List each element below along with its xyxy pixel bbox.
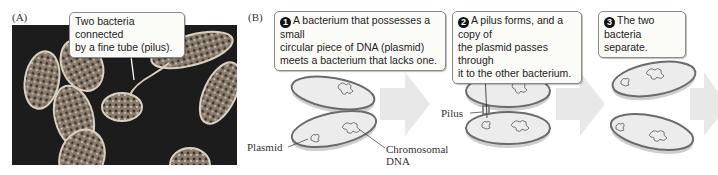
callout-line: A pilus forms, and a copy of [458,14,563,40]
step-number-badge: 3 [604,17,615,28]
callout-line: A bacterium that possesses a small [280,14,430,40]
pilus-tube [483,106,489,114]
bacterium-recipient-step1 [289,104,380,157]
callout-line: the plasmid passes through [458,41,576,67]
label-line: DNA [386,155,448,167]
pilus-label: Pilus [441,107,463,119]
bacterium-recipient-step2 [466,112,550,148]
bacterium-step3-top [610,56,698,106]
arrow-step-1 [380,72,430,136]
step-number-badge: 2 [458,17,469,28]
step-number-badge: 1 [280,17,291,28]
callout-line: it to the other bacterium. [458,67,576,80]
arrow-step-3 [690,72,718,136]
label-line: Chromosomal [386,143,448,155]
step-2-callout: 2A pilus forms, and a copy of the plasmi… [452,11,582,84]
step-3-callout: 3The two bacteria separate. [598,11,686,58]
chromosomal-dna-label: Chromosomal DNA [386,143,448,167]
callout-line: circular piece of DNA (plasmid) [280,41,440,54]
bacterium-step3-bottom [608,108,697,161]
step-1-callout: 1A bacterium that possesses a small circ… [274,11,446,71]
callout-line: The two [617,14,654,26]
callout-line: meets a bacterium that lacks one. [280,54,440,67]
plasmid-label: Plasmid [247,141,282,153]
callout-line: bacteria separate. [604,28,680,54]
